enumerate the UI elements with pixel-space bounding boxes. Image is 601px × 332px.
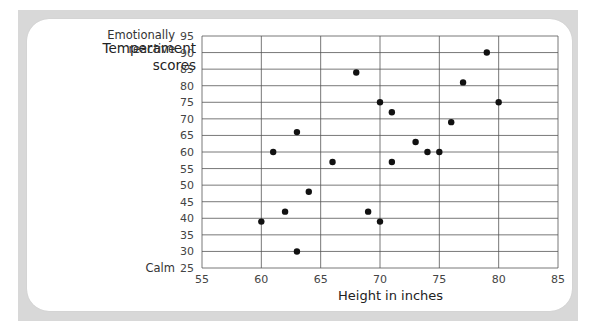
y-tick-label: 85 — [180, 63, 194, 76]
data-point — [424, 149, 430, 155]
data-point — [282, 208, 288, 214]
data-point — [389, 109, 395, 115]
data-point — [412, 139, 418, 145]
y-tick-label: 35 — [180, 229, 194, 242]
x-tick-label: 70 — [373, 273, 387, 286]
data-point — [365, 208, 371, 214]
data-point — [353, 69, 359, 75]
y-tick-label: 50 — [180, 179, 194, 192]
y-tick-label: 80 — [180, 80, 194, 93]
y-tick-label: 95 — [180, 30, 194, 43]
y-tick-label: 75 — [180, 96, 194, 109]
data-point — [460, 79, 466, 85]
x-tick-label: 80 — [492, 273, 506, 286]
y-tick-label: 70 — [180, 113, 194, 126]
x-tick-label: 65 — [314, 273, 328, 286]
x-tick-label: 60 — [254, 273, 268, 286]
data-point — [389, 159, 395, 165]
data-point — [377, 218, 383, 224]
data-point — [270, 149, 276, 155]
x-tick-label: 75 — [432, 273, 446, 286]
data-point — [484, 49, 490, 55]
y-tick-label: 25 — [180, 262, 194, 275]
y-tick-label: 30 — [180, 245, 194, 258]
y-tick-label: 40 — [180, 212, 194, 225]
y-tick-label: 45 — [180, 196, 194, 209]
data-point — [294, 129, 300, 135]
y-tick-label: 65 — [180, 129, 194, 142]
x-tick-label: 85 — [551, 273, 565, 286]
y-tick-label: 60 — [180, 146, 194, 159]
y-tick-label: 90 — [180, 47, 194, 60]
y-tick-label: 55 — [180, 163, 194, 176]
data-point — [294, 248, 300, 254]
data-point — [436, 149, 442, 155]
x-axis-title: Height in inches — [338, 288, 443, 303]
data-point — [448, 119, 454, 125]
x-tick-label: 55 — [195, 273, 209, 286]
data-point — [495, 99, 501, 105]
scatter-plot: 2530354045505560657075808590955560657075… — [0, 0, 601, 332]
data-point — [377, 99, 383, 105]
data-point — [258, 218, 264, 224]
data-point — [306, 189, 312, 195]
data-point — [329, 159, 335, 165]
